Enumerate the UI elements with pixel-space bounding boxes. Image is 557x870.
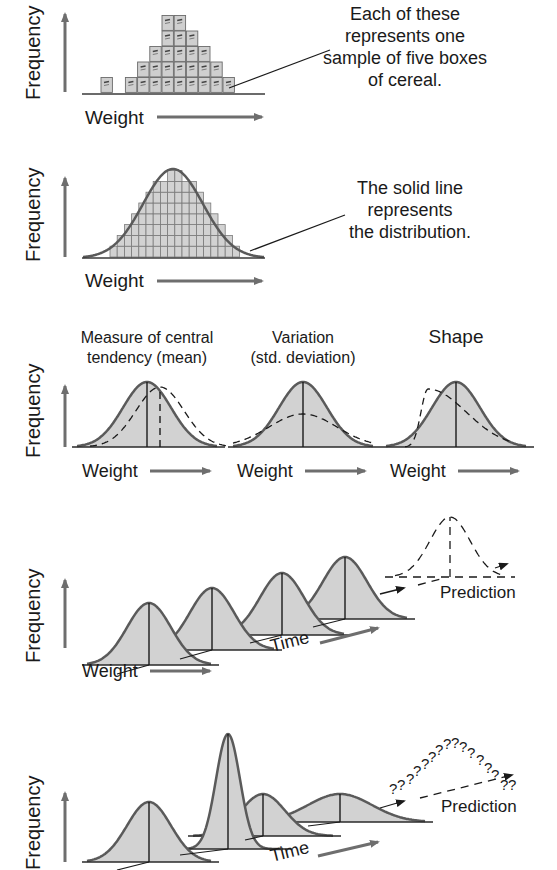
x-axis-label: Weight (85, 107, 145, 128)
svg-text:Measure of central: Measure of central (81, 329, 214, 346)
property-headers: Measure of central tendency (mean) Varia… (81, 326, 484, 366)
svg-text:Weight: Weight (237, 461, 293, 481)
svg-text:of cereal.: of cereal. (368, 70, 442, 90)
svg-text:?: ? (508, 776, 516, 793)
panel-distribution-properties: Frequency Measure of central tendency (m… (22, 326, 534, 481)
svg-text:The solid line: The solid line (357, 178, 463, 198)
svg-text:represents one: represents one (345, 26, 465, 46)
x-axis-label: Weight (85, 270, 145, 291)
svg-text:represents: represents (367, 200, 452, 220)
svg-text:Shape: Shape (429, 326, 484, 347)
prediction-label: Prediction (440, 583, 516, 602)
y-axis-label: Frequency (22, 168, 44, 263)
question-marks: ???????????????? (389, 734, 516, 797)
panel-sample-boxes: Frequency Weight Each of these represent… (22, 4, 487, 128)
annotation-curve: The solid line represents the distributi… (349, 178, 471, 242)
svg-text:the distribution.: the distribution. (349, 222, 471, 242)
distribution-diagram: Frequency Weight Each of these represent… (0, 0, 557, 870)
svg-text:(std. deviation): (std. deviation) (251, 349, 356, 366)
y-axis-label: Frequency (22, 776, 44, 870)
svg-text:Each of these: Each of these (350, 4, 460, 24)
y-axis-label: Frequency (22, 364, 44, 459)
svg-text:sample of five boxes: sample of five boxes (323, 48, 487, 68)
y-axis-label: Frequency (22, 569, 44, 664)
panel-stable-prediction: Frequency Weight Time Prediction (22, 517, 516, 681)
svg-text:Weight: Weight (82, 461, 138, 481)
property-curves (72, 382, 534, 447)
time-label: Time (268, 837, 311, 866)
svg-text:?: ? (491, 766, 499, 783)
leader-line (250, 215, 345, 251)
annotation-boxes: Each of these represents one sample of f… (323, 4, 487, 90)
svg-text:tendency (mean): tendency (mean) (87, 349, 207, 366)
x-axis-labels: Weight Weight Weight (82, 461, 446, 481)
prediction-label: Prediction (441, 797, 517, 816)
svg-text:?: ? (467, 744, 475, 761)
histogram-grid (110, 171, 240, 257)
panel-distribution-curve: Frequency Weight The solid line represen… (22, 168, 471, 292)
cereal-boxes (101, 16, 234, 93)
svg-text:Variation: Variation (272, 329, 334, 346)
y-axis-label: Frequency (22, 6, 44, 101)
x-axis-label: Weight (82, 661, 138, 681)
svg-text:Weight: Weight (390, 461, 446, 481)
time-arrow (318, 842, 378, 856)
svg-text:?: ? (397, 776, 405, 793)
panel-unstable-prediction: Frequency Time Prediction ??????????????… (22, 734, 517, 870)
leader-line (229, 50, 330, 88)
